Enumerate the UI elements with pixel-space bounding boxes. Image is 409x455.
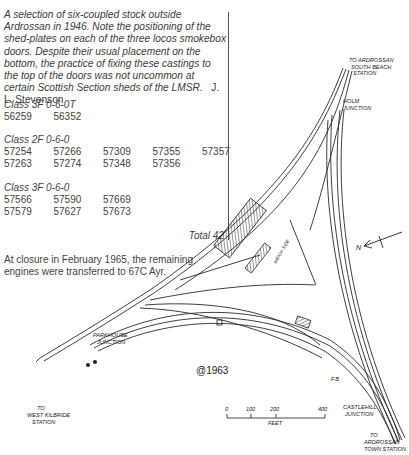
loco-number: 57673 xyxy=(103,206,153,217)
engine-shed xyxy=(214,198,267,258)
shed-label: WEIGH SIDE xyxy=(273,238,291,265)
loco-number: 57348 xyxy=(103,158,153,169)
signal-box xyxy=(217,320,222,325)
west-kilbride-label: TO xyxy=(37,405,45,411)
loco-number-row: 57254 57266 57309 57355 57357 xyxy=(4,146,252,157)
town-station-label: TOWN STATION xyxy=(364,446,407,452)
class-heading: Class 3F 0-6-0T xyxy=(4,99,76,110)
south-beach-label: SOUTH BEACH xyxy=(351,64,392,70)
loco-number-row: 57579 57627 57673 xyxy=(4,206,153,217)
north-label: N xyxy=(356,244,362,251)
loco-number: 57579 xyxy=(4,206,54,217)
castlehill-junction-label: CASTLEHILL xyxy=(343,404,377,410)
north-arrow-icon xyxy=(364,232,402,248)
loco-number: 57357 xyxy=(202,146,252,157)
scale-tick: 200 xyxy=(269,406,280,412)
loco-number: 56352 xyxy=(54,111,104,122)
loco-number: 57356 xyxy=(153,158,203,169)
loco-number: 57274 xyxy=(54,158,104,169)
castlehill-junction-label: JUNCTION xyxy=(344,411,374,417)
town-station-label: ARDROSSAN xyxy=(363,439,400,445)
year-label: @1963 xyxy=(196,365,229,376)
loco-number-row: 57263 57274 57348 57356 xyxy=(4,158,202,169)
south-beach-label: TO ARDROSSAN xyxy=(349,57,394,63)
hut xyxy=(295,316,311,328)
loco-number: 56259 xyxy=(4,111,54,122)
column-divider xyxy=(228,12,229,240)
class-heading: Class 3F 0-6-0 xyxy=(4,182,69,193)
loco-number-row: 57566 57590 57669 xyxy=(4,194,153,205)
footbridge-label: F.B. xyxy=(331,376,341,382)
loco-number: 57669 xyxy=(103,194,153,205)
south-beach-label: STATION xyxy=(353,70,377,76)
photo-caption: A selection of six-coupled stock outside… xyxy=(4,9,226,107)
loco-number: 57266 xyxy=(54,146,104,157)
loco-number: 57254 xyxy=(4,146,54,157)
scale-unit: FEET xyxy=(268,420,283,426)
loco-number: 57263 xyxy=(4,158,54,169)
loco-number: 57309 xyxy=(103,146,153,157)
holm-junction-label: HOLM xyxy=(343,98,360,104)
scale-bar xyxy=(227,414,325,418)
scale-tick: 0 xyxy=(225,406,229,412)
loco-number-row: 56259 56352 xyxy=(4,111,103,122)
loco-number: 57355 xyxy=(153,146,203,157)
closure-note: At closure in February 1965, the remaini… xyxy=(4,254,226,278)
parkhouse-junction-label: JUNCTION xyxy=(96,339,126,345)
west-kilbride-label: WEST KILBRIDE xyxy=(27,412,70,418)
holm-junction-label: JUNCTION xyxy=(342,105,372,111)
loco-number: 57627 xyxy=(54,206,104,217)
town-station-label: TO xyxy=(370,432,378,438)
scale-tick: 400 xyxy=(318,406,328,412)
parkhouse-junction-label: PARKHOUSE xyxy=(93,332,128,338)
loco-number: 57566 xyxy=(4,194,54,205)
weigh-house xyxy=(245,243,271,273)
total-count: Total 42 xyxy=(180,230,224,241)
loco-number: 57590 xyxy=(54,194,104,205)
west-kilbride-label: STATION xyxy=(32,419,56,425)
class-heading: Class 2F 0-6-0 xyxy=(4,134,69,145)
caption-text: A selection of six-coupled stock outside… xyxy=(4,9,226,93)
scale-tick: 100 xyxy=(246,406,256,412)
